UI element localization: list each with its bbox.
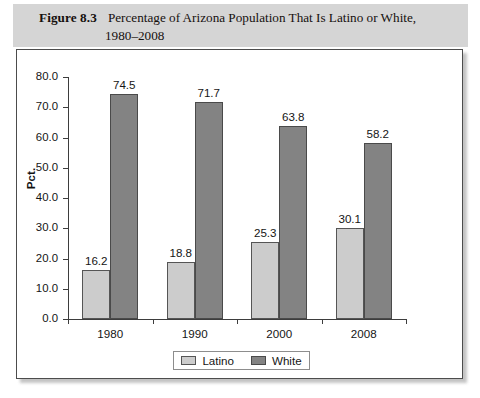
x-axis-tick: [237, 319, 238, 324]
figure-caption-line-2: 1980–2008: [105, 27, 454, 45]
bar-white-1990: [195, 102, 223, 319]
x-axis-tick: [322, 319, 323, 324]
y-axis-tick-label: 40.0: [36, 191, 58, 203]
legend-item-white: White: [251, 354, 302, 367]
bar-value-label: 71.7: [197, 86, 220, 99]
chart-legend: Latino White: [173, 351, 310, 370]
y-axis-tick: 10.0: [63, 289, 68, 290]
y-axis-tick-label: 20.0: [36, 252, 58, 264]
legend-swatch-white: [251, 356, 266, 365]
plot-area: Pct. 0.010.020.030.040.050.060.070.080.0…: [17, 50, 464, 380]
legend-item-latino: Latino: [181, 354, 234, 367]
bar-latino-2000: [251, 242, 279, 319]
y-axis-tick: 80.0: [63, 77, 68, 78]
y-axis-tick: 40.0: [63, 198, 68, 199]
y-axis-tick-label: 70.0: [36, 100, 58, 112]
y-axis-tick-label: 0.0: [42, 312, 58, 324]
bar-value-label: 30.1: [338, 212, 361, 225]
legend-label-white: White: [272, 354, 302, 367]
bar-value-label: 16.2: [85, 254, 108, 267]
y-axis-tick-label: 60.0: [36, 131, 58, 143]
figure-caption-band: Figure 8.3Percentage of Arizona Populati…: [13, 4, 468, 47]
y-axis-tick: 20.0: [63, 259, 68, 260]
bar-value-label: 74.5: [113, 78, 136, 91]
y-axis-tick-label: 30.0: [36, 221, 58, 233]
figure-number-label: Figure 8.3: [39, 10, 97, 25]
y-axis-tick-label: 50.0: [36, 161, 58, 173]
y-axis-tick: 70.0: [63, 107, 68, 108]
y-axis-tick-label: 10.0: [36, 282, 58, 294]
figure-caption: Figure 8.3Percentage of Arizona Populati…: [39, 9, 454, 45]
x-axis-category-label: 1990: [182, 327, 208, 340]
y-axis-tick: 60.0: [63, 138, 68, 139]
figure-container: Figure 8.3Percentage of Arizona Populati…: [0, 0, 480, 398]
y-axis-tick-label: 80.0: [36, 70, 58, 82]
y-axis-tick: 50.0: [63, 168, 68, 169]
chart-panel: Pct. 0.010.020.030.040.050.060.070.080.0…: [16, 49, 463, 379]
legend-label-latino: Latino: [202, 354, 234, 367]
x-axis-tick: [153, 319, 154, 324]
x-axis-category-label: 1980: [97, 327, 123, 340]
x-axis-tick: [406, 319, 407, 324]
figure-caption-line-1: Percentage of Arizona Population That Is…: [108, 10, 416, 25]
bar-value-label: 25.3: [254, 226, 277, 239]
y-axis-tick: 30.0: [63, 228, 68, 229]
bar-latino-1990: [167, 262, 195, 319]
bar-white-2000: [279, 126, 307, 319]
bar-value-label: 63.8: [282, 110, 305, 123]
legend-swatch-latino: [181, 356, 196, 365]
x-axis-category-label: 2000: [266, 327, 292, 340]
y-axis-line: [68, 77, 69, 320]
bar-white-2008: [364, 143, 392, 319]
bar-latino-2008: [336, 228, 364, 319]
bar-white-1980: [110, 94, 138, 319]
bar-value-label: 18.8: [169, 246, 192, 259]
x-axis-tick: [68, 319, 69, 324]
bar-value-label: 58.2: [366, 127, 389, 140]
bar-latino-1980: [82, 270, 110, 319]
x-axis-category-label: 2008: [351, 327, 377, 340]
